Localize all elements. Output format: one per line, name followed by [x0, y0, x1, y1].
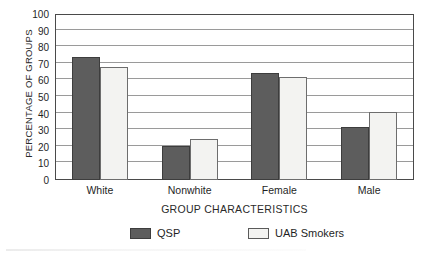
bar-male-qsp [341, 127, 369, 180]
y-tick-label-0: 0 [19, 175, 49, 186]
y-tick-label-40: 40 [19, 108, 49, 119]
y-tick-label-30: 30 [19, 125, 49, 136]
y-tick-label-100: 100 [19, 9, 49, 20]
bar-nonwhite-uab-smokers [190, 139, 218, 180]
bars-layer [55, 14, 414, 180]
category-label-female: Female [262, 184, 297, 196]
category-label-male: Male [358, 184, 381, 196]
y-tick-label-20: 20 [19, 141, 49, 152]
legend-label: UAB Smokers [275, 227, 344, 239]
legend-item-uab-smokers: UAB Smokers [248, 227, 344, 239]
bar-nonwhite-qsp [162, 146, 190, 180]
category-label-white: White [86, 184, 113, 196]
scan-artifact [6, 249, 306, 251]
chart-legend: QSPUAB Smokers [100, 227, 350, 243]
bar-white-uab-smokers [100, 67, 128, 180]
bar-chart-figure: PERCENTAGE OF GROUPS 0102030405060708090… [0, 0, 429, 258]
y-tick-label-70: 70 [19, 58, 49, 69]
bar-female-uab-smokers [279, 77, 307, 180]
legend-item-qsp: QSP [130, 227, 180, 239]
legend-swatch-icon-qsp [130, 228, 151, 239]
y-tick-label-50: 50 [19, 92, 49, 103]
y-tick-label-60: 60 [19, 75, 49, 86]
bar-male-uab-smokers [369, 112, 397, 180]
y-tick-label-90: 90 [19, 25, 49, 36]
bar-white-qsp [72, 57, 100, 180]
category-label-nonwhite: Nonwhite [168, 184, 212, 196]
y-tick-label-10: 10 [19, 158, 49, 169]
legend-label: QSP [157, 227, 180, 239]
bar-female-qsp [251, 73, 279, 180]
y-tick-label-80: 80 [19, 42, 49, 53]
legend-swatch-icon-uab-smokers [248, 228, 269, 239]
x-axis-title: GROUP CHARACTERISTICS [55, 203, 414, 215]
